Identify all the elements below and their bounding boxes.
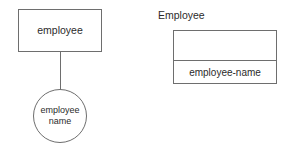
- er-attribute-label-line-2: name: [49, 116, 72, 127]
- er-attribute-employee-name: employee name: [33, 89, 87, 143]
- er-diagram-canvas: employee employee name Employee employee…: [0, 0, 289, 150]
- er-entity-employee: employee: [18, 9, 102, 52]
- er-attribute-label-line-1: employee: [40, 105, 79, 116]
- table-header-row: [174, 31, 276, 61]
- er-entity-label: employee: [37, 25, 83, 37]
- er-connector-line: [60, 52, 61, 90]
- table-cell-employee-name: employee-name: [189, 67, 261, 78]
- relational-table-caption: Employee: [158, 10, 205, 22]
- table-row: employee-name: [174, 61, 276, 83]
- relational-table: employee-name: [173, 30, 277, 84]
